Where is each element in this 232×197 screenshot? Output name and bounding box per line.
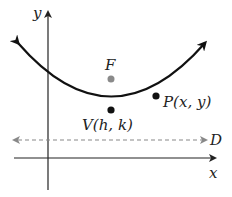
y-axis-label: y bbox=[32, 4, 42, 22]
x-axis-label: x bbox=[209, 164, 218, 182]
point-p-label: P(x, y) bbox=[162, 93, 211, 111]
vertex-point bbox=[107, 106, 114, 113]
parabola-diagram: y x F V(h, k) P(x, y) D bbox=[0, 0, 232, 197]
focus-point bbox=[108, 76, 115, 83]
focus-label: F bbox=[104, 56, 116, 74]
directrix-label: D bbox=[209, 131, 222, 149]
vertex-label: V(h, k) bbox=[82, 116, 133, 134]
point-p bbox=[152, 92, 159, 99]
